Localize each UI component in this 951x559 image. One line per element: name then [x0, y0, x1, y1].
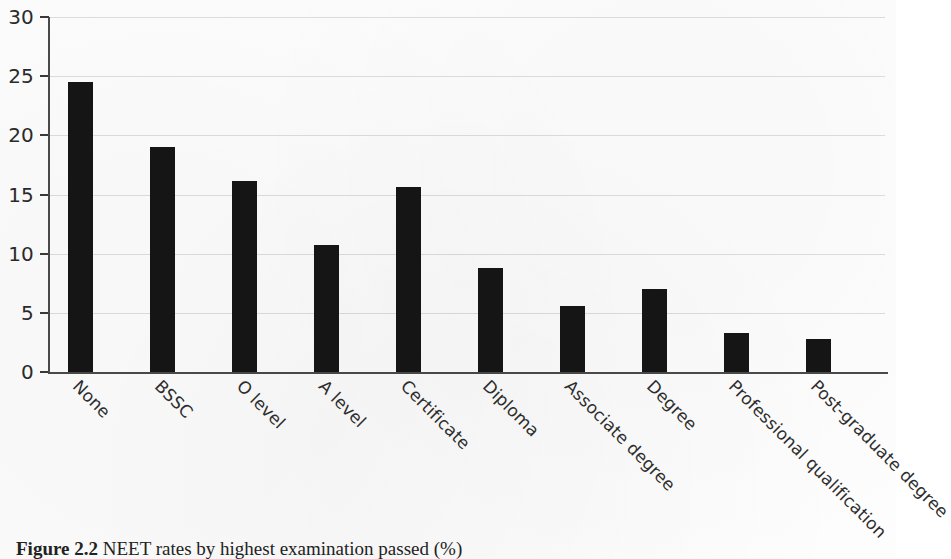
- y-axis-tick-label: 5: [0, 301, 34, 325]
- x-axis-category-label: O level: [232, 376, 289, 433]
- figure-number: Figure 2.2: [16, 538, 98, 559]
- bar: [724, 333, 749, 372]
- y-axis-tick-label: 25: [0, 64, 34, 88]
- bar: [396, 187, 421, 372]
- bar: [150, 147, 175, 372]
- x-axis-category-label: Degree: [642, 376, 700, 434]
- x-axis-category-label: Certificate: [396, 376, 473, 453]
- bar: [232, 181, 257, 372]
- bar: [68, 82, 93, 372]
- bar: [806, 339, 831, 372]
- bar: [560, 306, 585, 372]
- x-axis-category-label: BSSC: [150, 376, 196, 422]
- x-axis-category-label: None: [68, 376, 114, 422]
- y-axis-tick-label: 10: [0, 242, 34, 266]
- y-axis-tick-label: 0: [0, 360, 34, 384]
- x-axis-category-label: Post-graduate degree: [806, 376, 951, 522]
- y-axis-tick-label: 20: [0, 123, 34, 147]
- y-axis-tick-labels: 051015202530: [0, 0, 34, 520]
- y-axis-tick-label: 30: [0, 5, 34, 29]
- bar: [314, 245, 339, 372]
- bar: [478, 268, 503, 372]
- x-axis-category-label: A level: [314, 376, 369, 431]
- figure-caption-text: NEET rates by highest examination passed…: [103, 538, 463, 559]
- x-axis-category-labels: NoneBSSCO levelA levelCertificateDiploma…: [48, 376, 888, 516]
- bar: [642, 289, 667, 372]
- x-axis-category-label: Professional qualification: [724, 376, 890, 542]
- figure-caption: Figure 2.2 NEET rates by highest examina…: [16, 538, 462, 559]
- plot-area: [48, 17, 888, 372]
- y-axis-tick-label: 15: [0, 183, 34, 207]
- x-axis-line: [48, 372, 888, 374]
- x-axis-category-label: Diploma: [478, 376, 543, 441]
- bar-chart: 051015202530 NoneBSSCO levelA levelCerti…: [0, 0, 896, 520]
